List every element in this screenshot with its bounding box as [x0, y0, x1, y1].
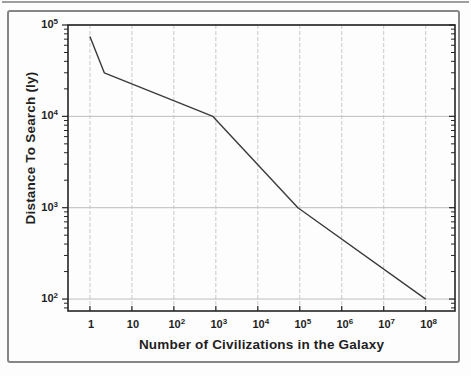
- x-tick-label: 108: [411, 317, 447, 331]
- x-tick-label: 10: [115, 317, 151, 331]
- y-tick-label: 102: [24, 291, 58, 305]
- x-tick-label: 1: [73, 317, 109, 331]
- x-tick-label: 105: [285, 317, 321, 331]
- x-tick-label: 103: [201, 317, 237, 331]
- x-tick-label: 106: [327, 317, 363, 331]
- x-tick-label: 104: [243, 317, 279, 331]
- x-tick-label: 107: [369, 317, 405, 331]
- x-tick-label: 102: [159, 317, 195, 331]
- y-axis-title: Distance To Search (ly): [23, 72, 38, 225]
- x-axis-title: Number of Civilizations in the Galaxy: [68, 337, 455, 352]
- figure: 110102103104105106107108102103104105 Dis…: [0, 0, 471, 376]
- y-tick-label: 105: [24, 17, 58, 31]
